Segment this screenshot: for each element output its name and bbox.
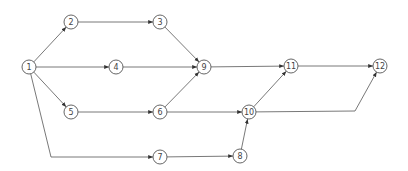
node-label: 12 bbox=[375, 62, 385, 71]
node-11: 11 bbox=[284, 59, 298, 73]
network-diagram: 123456789101112 bbox=[0, 0, 408, 171]
node-label: 6 bbox=[157, 108, 162, 117]
node-label: 1 bbox=[26, 63, 31, 72]
edge-7-to-8 bbox=[167, 156, 233, 157]
node-label: 3 bbox=[157, 18, 162, 27]
node-6: 6 bbox=[153, 105, 167, 119]
edge-10-to-11 bbox=[254, 71, 287, 107]
edge-6-to-9 bbox=[165, 72, 199, 107]
edge-8-to-10 bbox=[241, 119, 247, 149]
node-3: 3 bbox=[153, 15, 167, 29]
node-1: 1 bbox=[22, 60, 36, 74]
edge-9-to-11 bbox=[211, 66, 284, 67]
node-label: 5 bbox=[68, 108, 73, 117]
node-9: 9 bbox=[197, 60, 211, 74]
node-label: 8 bbox=[237, 152, 242, 161]
edge-1-to-5 bbox=[34, 72, 66, 107]
edge-3-to-9 bbox=[165, 27, 199, 62]
node-label: 7 bbox=[157, 153, 162, 162]
node-10: 10 bbox=[242, 105, 256, 119]
node-label: 2 bbox=[68, 18, 73, 27]
node-12: 12 bbox=[373, 59, 387, 73]
node-label: 11 bbox=[286, 62, 296, 71]
node-label: 4 bbox=[113, 63, 118, 72]
nodes-layer: 123456789101112 bbox=[22, 15, 387, 164]
node-label: 9 bbox=[201, 63, 206, 72]
node-4: 4 bbox=[109, 60, 123, 74]
edge-10-to-12 bbox=[256, 72, 377, 112]
edge-1-to-2 bbox=[34, 27, 66, 62]
node-8: 8 bbox=[233, 149, 247, 163]
edges-layer bbox=[31, 22, 377, 157]
node-7: 7 bbox=[153, 150, 167, 164]
node-label: 10 bbox=[244, 108, 254, 117]
edge-1-to-7 bbox=[31, 74, 153, 157]
node-5: 5 bbox=[64, 105, 78, 119]
node-2: 2 bbox=[64, 15, 78, 29]
